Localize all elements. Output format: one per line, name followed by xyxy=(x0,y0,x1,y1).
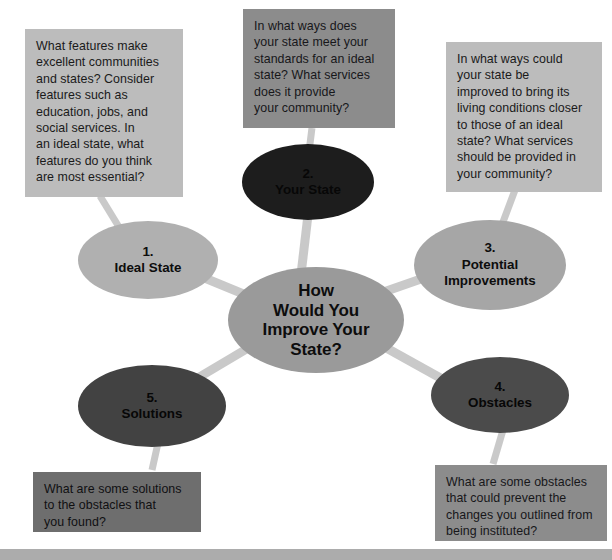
ellipse-node-4[interactable] xyxy=(431,357,569,433)
ellipse-node-2[interactable] xyxy=(242,144,374,220)
ellipse-node-5[interactable] xyxy=(78,365,226,447)
note-ideal-state[interactable]: What features make excellent communities… xyxy=(25,29,183,197)
ellipse-center[interactable] xyxy=(228,267,404,373)
ellipse-node-3[interactable] xyxy=(414,220,566,310)
diagram-canvas: How Would You Improve Your State? 1. Ide… xyxy=(0,0,612,560)
note-your-state[interactable]: In what ways does your state meet your s… xyxy=(243,9,395,128)
connector-node4-to-note4 xyxy=(493,430,503,464)
connector-node5-to-note5 xyxy=(152,443,158,470)
footer-bar xyxy=(0,549,612,560)
note-solutions[interactable]: What are some solutions to the obstacles… xyxy=(33,472,201,532)
note-potential-improvements[interactable]: In what ways could your state be improve… xyxy=(446,42,602,192)
note-obstacles[interactable]: What are some obstacles that could preve… xyxy=(435,465,607,541)
ellipse-node-1[interactable] xyxy=(78,221,218,299)
